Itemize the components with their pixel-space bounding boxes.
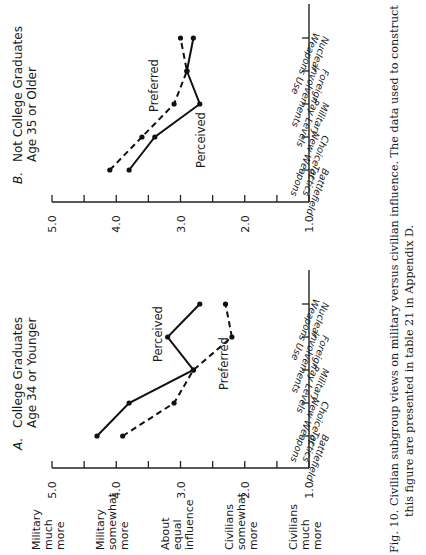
data-point bbox=[107, 167, 112, 172]
scale-descriptor: Militarymuchmore bbox=[30, 509, 67, 550]
series-label-perceived: Perceived bbox=[151, 306, 165, 362]
figure-caption: Fig. 10. Civilian subgroup views on mili… bbox=[388, 5, 416, 553]
scale-descriptor: Militarysomewhatmore bbox=[94, 492, 131, 550]
data-point bbox=[152, 134, 157, 139]
data-point bbox=[139, 134, 144, 139]
value-tick-label: 5.0 bbox=[46, 215, 59, 233]
scale-descriptor: Aboutequalinfluence bbox=[159, 499, 196, 550]
scale-descriptor-line: more bbox=[54, 521, 67, 550]
data-point bbox=[171, 101, 176, 106]
panel-title: B.Not College GraduatesAge 35 or Older bbox=[11, 26, 39, 184]
data-point bbox=[184, 68, 189, 73]
series-label-preferred: Preferred bbox=[147, 59, 161, 112]
value-tick-label: 5.0 bbox=[46, 481, 59, 499]
value-tick-label: 2.0 bbox=[239, 215, 252, 233]
data-point bbox=[127, 167, 132, 172]
panel-letter: A. bbox=[11, 438, 25, 451]
scale-descriptor-line: more bbox=[247, 521, 260, 550]
scale-descriptor-line: influence bbox=[183, 499, 196, 550]
panel-title-line: Not College Graduates bbox=[11, 26, 25, 162]
series-line-perceived bbox=[129, 38, 200, 170]
series-line-preferred bbox=[123, 304, 232, 436]
data-point bbox=[197, 101, 202, 106]
chart-panel-a: 5.04.03.02.01.0BattlefieldTacticsChoice … bbox=[11, 270, 331, 499]
figure-canvas: 5.04.03.02.01.0BattlefieldTacticsChoice … bbox=[0, 0, 426, 555]
series-label-preferred: Preferred bbox=[217, 337, 231, 390]
data-point bbox=[94, 433, 99, 438]
value-tick-label: 3.0 bbox=[175, 481, 188, 499]
data-point bbox=[127, 400, 132, 405]
data-point bbox=[171, 400, 176, 405]
value-tick-label: 1.0 bbox=[303, 481, 316, 499]
figure-10: 5.04.03.02.01.0BattlefieldTacticsChoice … bbox=[0, 0, 426, 555]
panel-title-line: College Graduates bbox=[11, 317, 25, 428]
data-point bbox=[197, 301, 202, 306]
series-label-perceived: Perceived bbox=[194, 112, 208, 168]
scale-descriptor-line: more bbox=[118, 521, 131, 550]
scale-descriptor: Civilianssomewhatmore bbox=[223, 492, 260, 550]
data-point bbox=[191, 367, 196, 372]
scale-descriptor-line: more bbox=[311, 521, 324, 550]
panel-title-line: Age 35 or Older bbox=[25, 67, 39, 162]
caption-line-2: this figure are presented in table 21 in… bbox=[403, 225, 416, 517]
data-point bbox=[178, 35, 183, 40]
scale-descriptor: Civiliansmuchmore bbox=[287, 504, 324, 550]
panel-letter: B. bbox=[11, 172, 25, 184]
data-point bbox=[120, 433, 125, 438]
panel-title: A.College GraduatesAge 34 or Younger bbox=[11, 317, 39, 451]
caption-line-1: Fig. 10. Civilian subgroup views on mili… bbox=[388, 5, 401, 553]
data-point bbox=[191, 35, 196, 40]
data-point bbox=[165, 334, 170, 339]
value-tick-label: 3.0 bbox=[175, 215, 188, 233]
data-point bbox=[223, 301, 228, 306]
series-line-perceived bbox=[97, 304, 200, 436]
chart-panel-b: 5.04.03.02.01.0BattlefieldTacticsChoice … bbox=[11, 4, 331, 233]
value-tick-label: 4.0 bbox=[110, 215, 123, 233]
value-tick-label: 1.0 bbox=[303, 215, 316, 233]
panel-title-line: Age 34 or Younger bbox=[25, 318, 39, 428]
